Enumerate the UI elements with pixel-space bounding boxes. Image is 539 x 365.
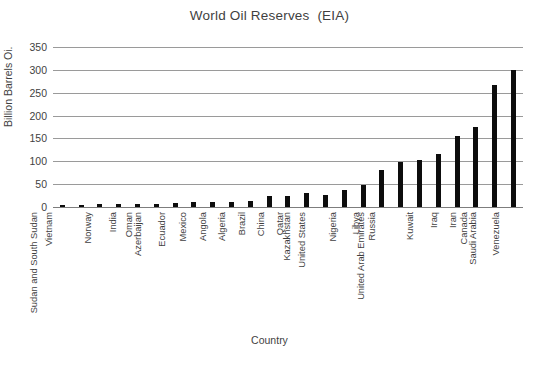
x-tick-label: Kazakhstan [282, 212, 291, 261]
bar[interactable] [379, 170, 384, 207]
bar-slot [373, 47, 392, 207]
bar-slot [222, 47, 241, 207]
x-tick-label: Vietnam [45, 212, 54, 246]
bar[interactable] [492, 85, 497, 208]
x-tick-slot: Norway [91, 209, 110, 304]
bar-slot [485, 47, 504, 207]
bar-series [53, 47, 523, 207]
bar[interactable] [285, 196, 290, 207]
y-tick-label: 350 [29, 41, 47, 53]
x-tick-label: Iraq [430, 212, 439, 228]
bar[interactable] [417, 160, 422, 207]
chart-container: World Oil Reserves (EIA) Billion Barrels… [0, 0, 539, 365]
bar[interactable] [342, 190, 347, 207]
x-tick-slot: Venezuela [504, 209, 523, 304]
bar-slot [185, 47, 204, 207]
x-tick-label: Ecuador [158, 212, 167, 247]
x-tick-label: Russia [368, 212, 377, 240]
bar-slot [53, 47, 72, 207]
x-tick-label: United States [298, 212, 307, 268]
x-tick-label: Brazil [239, 212, 248, 235]
x-tick-label: India [109, 212, 118, 232]
x-tick-slot: Iraq [429, 209, 448, 304]
bar[interactable] [398, 162, 403, 207]
bar-slot [72, 47, 91, 207]
bar-slot [147, 47, 166, 207]
x-tick-label: Algeria [217, 212, 226, 241]
x-tick-label: Saudi Arabia [468, 212, 477, 265]
x-tick-label: China [257, 212, 266, 236]
bar[interactable] [473, 127, 478, 207]
x-tick-label: Norway [84, 212, 93, 244]
x-tick-slot: Russia [373, 209, 392, 304]
y-tick-label: 200 [29, 110, 47, 122]
bar[interactable] [511, 70, 516, 207]
bar-slot [335, 47, 354, 207]
bar-slot [260, 47, 279, 207]
bar[interactable] [436, 154, 441, 207]
x-tick-label: Azerbaijan [134, 212, 143, 256]
x-tick-label: Angola [198, 212, 207, 241]
bar[interactable] [455, 136, 460, 207]
chart-title: World Oil Reserves (EIA) [0, 8, 539, 23]
bar-slot [91, 47, 110, 207]
bar[interactable] [361, 185, 366, 207]
x-tick-label: United Arab Emirates [357, 212, 366, 300]
y-tick-label: 250 [29, 87, 47, 99]
bar[interactable] [304, 193, 309, 207]
x-tick-slot: Kuwait [410, 209, 429, 304]
x-tick-label: Venezuela [492, 212, 501, 255]
bar-slot [410, 47, 429, 207]
bar-slot [504, 47, 523, 207]
bar-slot [109, 47, 128, 207]
x-tick-label: Nigeria [330, 212, 339, 241]
bar-slot [448, 47, 467, 207]
x-axis-line [53, 207, 523, 208]
bar-slot [128, 47, 147, 207]
bar-slot [241, 47, 260, 207]
bar-slot [467, 47, 486, 207]
bar[interactable] [323, 195, 328, 207]
x-tick-label: Mexico [179, 212, 188, 241]
bar-slot [391, 47, 410, 207]
bar[interactable] [267, 196, 272, 207]
x-axis-title: Country [0, 334, 539, 346]
y-tick-label: 50 [35, 178, 47, 190]
y-tick-label: 100 [29, 155, 47, 167]
y-axis-title: Billion Barrels Oi. [2, 46, 14, 127]
bar-slot [354, 47, 373, 207]
bar-slot [429, 47, 448, 207]
y-tick-label: 300 [29, 64, 47, 76]
bar-slot [297, 47, 316, 207]
x-axis-tick-labels: VietnamSudan and South SudanNorwayIndiaO… [53, 209, 523, 304]
bar-slot [279, 47, 298, 207]
bar-slot [166, 47, 185, 207]
y-tick-label: 150 [29, 132, 47, 144]
bar-slot [316, 47, 335, 207]
plot-area: 050100150200250300350 [53, 47, 523, 207]
bar-slot [203, 47, 222, 207]
x-tick-slot: Vietnam [53, 209, 72, 304]
x-tick-label: Kuwait [406, 212, 415, 240]
x-tick-label: Iran [449, 212, 458, 228]
x-tick-label: Sudan and South Sudan [31, 212, 40, 313]
